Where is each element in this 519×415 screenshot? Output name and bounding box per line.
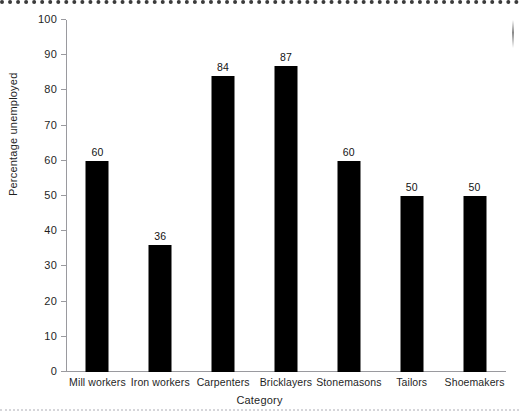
bar bbox=[86, 161, 109, 372]
scan-edge-right-decoration bbox=[512, 20, 514, 48]
bar-group: 87Bricklayers bbox=[255, 20, 318, 372]
x-axis-category-label: Bricklayers bbox=[260, 376, 312, 388]
bar-value-label: 60 bbox=[91, 147, 103, 158]
x-axis-category-label: Iron workers bbox=[131, 376, 190, 388]
bar bbox=[274, 66, 297, 372]
x-axis-category-label: Mill workers bbox=[69, 376, 126, 388]
y-axis-tick-label: 80 bbox=[44, 84, 57, 95]
bar-chart-figure: Percentage unemployed 010203040506070809… bbox=[0, 0, 519, 415]
y-axis-tick-label: 10 bbox=[44, 330, 57, 341]
bar-value-label: 87 bbox=[280, 52, 292, 63]
bar-group: 50Tailors bbox=[380, 20, 443, 372]
bar bbox=[337, 161, 360, 372]
plot-area: 0102030405060708090100 60Mill workers36I… bbox=[66, 20, 506, 372]
x-axis-category-label: Shoemakers bbox=[445, 376, 505, 388]
bar-value-label: 60 bbox=[343, 147, 355, 158]
x-axis-category-label: Carpenters bbox=[197, 376, 250, 388]
bar bbox=[212, 76, 235, 372]
y-axis-tick-label: 60 bbox=[44, 154, 57, 165]
bars-container: 60Mill workers36Iron workers84Carpenters… bbox=[66, 20, 506, 372]
scan-edge-top-decoration bbox=[0, 0, 519, 9]
bar-group: 36Iron workers bbox=[129, 20, 192, 372]
y-axis-tick-label: 70 bbox=[44, 119, 57, 130]
bar-group: 84Carpenters bbox=[192, 20, 255, 372]
y-axis-tick-label: 100 bbox=[38, 14, 57, 25]
bar bbox=[400, 196, 423, 372]
y-axis-tick-label: 40 bbox=[44, 225, 57, 236]
bar-value-label: 50 bbox=[406, 182, 418, 193]
y-axis-tick-label: 90 bbox=[44, 49, 57, 60]
y-axis-tick-label: 0 bbox=[51, 366, 57, 377]
x-axis-title: Category bbox=[0, 394, 519, 406]
bar bbox=[463, 196, 486, 372]
bar-value-label: 50 bbox=[469, 182, 481, 193]
scan-edge-bottom-decoration bbox=[0, 409, 519, 414]
y-axis-tick-label: 50 bbox=[44, 190, 57, 201]
x-axis-category-label: Stonemasons bbox=[316, 376, 381, 388]
bar-group: 60Mill workers bbox=[66, 20, 129, 372]
bar-group: 50Shoemakers bbox=[443, 20, 506, 372]
bar bbox=[149, 245, 172, 372]
y-axis-tick-label: 30 bbox=[44, 260, 57, 271]
bar-value-label: 84 bbox=[217, 62, 229, 73]
x-axis-category-label: Tailors bbox=[396, 376, 427, 388]
y-axis-tick-label: 20 bbox=[44, 295, 57, 306]
bar-group: 60Stonemasons bbox=[317, 20, 380, 372]
bar-value-label: 36 bbox=[154, 231, 166, 242]
y-axis-title: Percentage unemployed bbox=[8, 73, 19, 196]
